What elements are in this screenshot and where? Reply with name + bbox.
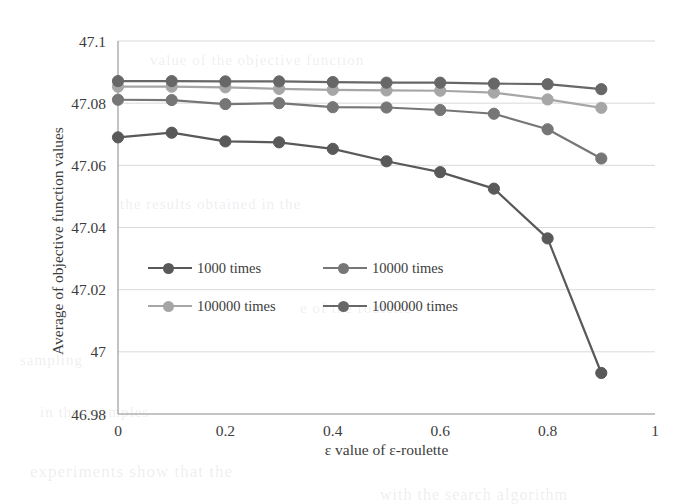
x-tick-label: 0.4 — [323, 422, 343, 439]
data-point-marker — [327, 143, 338, 154]
data-point-marker — [542, 124, 553, 135]
y-tick-label: 47.06 — [71, 157, 106, 174]
data-point-marker — [381, 77, 392, 88]
legend-marker-icon — [163, 301, 174, 312]
chart-legend: 1000 times 10000 times 100000 times 1000… — [148, 249, 478, 325]
data-point-marker — [488, 78, 499, 89]
data-point-marker — [220, 76, 231, 87]
y-tick-label: 47.1 — [79, 33, 106, 50]
legend-item-100000-times[interactable]: 100000 times — [148, 298, 323, 315]
legend-marker-icon — [338, 263, 349, 274]
legend-item-1000000-times[interactable]: 1000000 times — [323, 298, 498, 315]
y-tick-label-group: 46.984747.0247.0447.0647.0847.1 — [71, 33, 106, 423]
series-100000-times — [112, 81, 607, 113]
data-point-marker — [112, 94, 123, 105]
x-tick-label: 1 — [651, 422, 659, 439]
data-point-marker — [542, 94, 553, 105]
data-point-marker — [596, 367, 607, 378]
y-tick-label: 47.04 — [71, 219, 106, 236]
data-point-marker — [274, 137, 285, 148]
x-tick-label: 0 — [114, 422, 122, 439]
data-point-marker — [327, 76, 338, 87]
data-point-marker — [274, 76, 285, 87]
data-point-marker — [488, 108, 499, 119]
legend-swatch-icon — [148, 261, 192, 275]
data-point-marker — [596, 153, 607, 164]
data-point-marker — [166, 94, 177, 105]
data-point-marker — [220, 99, 231, 110]
x-tick-label-group: 00.20.40.60.81 — [114, 422, 659, 439]
data-point-marker — [166, 76, 177, 87]
data-point-marker — [112, 132, 123, 143]
legend-swatch-icon — [323, 299, 367, 313]
y-axis-title: Average of objective function values — [49, 91, 67, 391]
legend-item-1000-times[interactable]: 1000 times — [148, 260, 323, 277]
legend-marker-icon — [338, 301, 349, 312]
data-point-marker — [488, 183, 499, 194]
y-tick-label: 47 — [91, 343, 107, 360]
data-point-marker — [274, 98, 285, 109]
data-point-marker — [435, 77, 446, 88]
x-tick-label: 0.8 — [538, 422, 558, 439]
x-tick-label: 0.2 — [216, 422, 235, 439]
data-point-marker — [381, 102, 392, 113]
legend-swatch-icon — [148, 299, 192, 313]
legend-marker-icon — [163, 263, 174, 274]
series-line — [118, 87, 601, 108]
legend-label: 1000 times — [197, 260, 261, 277]
data-point-marker — [542, 79, 553, 90]
series-10000-times — [112, 94, 607, 164]
y-tick-label: 47.02 — [71, 281, 106, 298]
data-point-marker — [220, 136, 231, 147]
series-line — [118, 100, 601, 159]
data-point-marker — [596, 102, 607, 113]
gridlines-group — [118, 41, 655, 414]
legend-item-10000-times[interactable]: 10000 times — [323, 260, 498, 277]
x-axis-title: ε value of ε-roulette — [118, 441, 655, 459]
data-point-marker — [596, 84, 607, 95]
legend-label: 1000000 times — [372, 298, 458, 315]
data-point-marker — [381, 156, 392, 167]
legend-swatch-icon — [323, 261, 367, 275]
y-tick-label: 46.98 — [71, 406, 106, 423]
y-tick-label: 47.08 — [71, 95, 106, 112]
series-1000000-times — [112, 76, 607, 95]
legend-label: 10000 times — [372, 260, 443, 277]
data-point-marker — [435, 104, 446, 115]
data-point-marker — [327, 102, 338, 113]
data-point-marker — [112, 76, 123, 87]
data-point-marker — [542, 233, 553, 244]
x-tick-label: 0.6 — [431, 422, 451, 439]
legend-label: 100000 times — [197, 298, 276, 315]
data-point-marker — [435, 167, 446, 178]
data-point-marker — [166, 127, 177, 138]
